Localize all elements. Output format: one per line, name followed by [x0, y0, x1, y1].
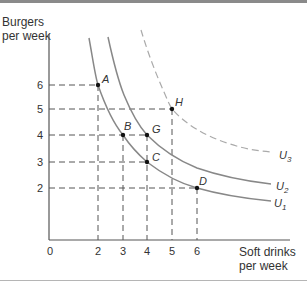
- tick-y-2: 2: [37, 182, 43, 194]
- tick-y-5: 5: [37, 103, 43, 115]
- tick-x-4: 4: [144, 245, 150, 257]
- indifference-chart: A B G C D H U3 U2 U1 0 2 3 4 5 6 6 5 4 3…: [0, 0, 307, 289]
- label-u1: U1: [274, 197, 286, 212]
- curve-u1: [89, 38, 271, 201]
- point-a: [96, 83, 100, 87]
- tick-x-5: 5: [169, 245, 175, 257]
- label-g: G: [152, 123, 161, 135]
- label-b: B: [124, 120, 131, 132]
- label-u3: U3: [279, 149, 292, 164]
- tick-x-6: 6: [194, 245, 200, 257]
- curve-u3: [141, 30, 272, 152]
- guide-lines: [49, 85, 197, 240]
- point-h: [170, 107, 174, 111]
- label-a: A: [101, 73, 109, 85]
- tick-x-0: 0: [47, 245, 53, 257]
- label-c: C: [152, 151, 160, 163]
- tick-x-2: 2: [95, 245, 101, 257]
- data-points: [96, 83, 199, 190]
- tick-y-3: 3: [37, 156, 43, 168]
- label-h: H: [175, 96, 183, 108]
- tick-y-6: 6: [37, 79, 43, 91]
- point-c: [145, 160, 149, 164]
- label-d: D: [199, 175, 207, 187]
- point-b: [121, 133, 125, 137]
- tick-y-4: 4: [37, 129, 43, 141]
- tick-x-3: 3: [120, 245, 126, 257]
- label-u2: U2: [276, 180, 289, 195]
- point-g: [145, 133, 149, 137]
